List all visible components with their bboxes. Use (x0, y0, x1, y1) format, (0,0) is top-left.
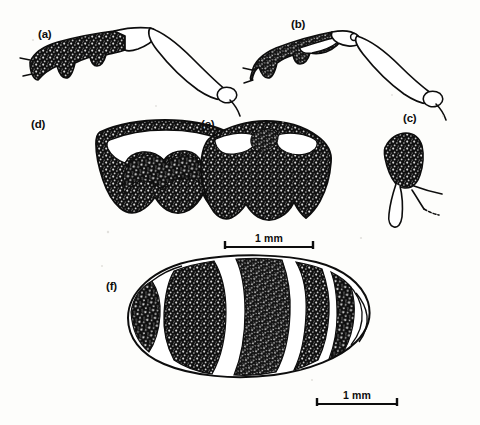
scale-bar-top-label: 1 mm (224, 232, 314, 244)
panel-label-a: (a) (38, 28, 51, 40)
panel-a-drawing (20, 28, 240, 116)
panel-f-drawing (128, 255, 370, 377)
figure-plate: (a) (b) (c) (d) (e) (f) 1 mm 1 mm (0, 0, 480, 425)
panel-label-d: (d) (31, 118, 45, 130)
panel-c-drawing (384, 133, 442, 227)
panel-label-f: (f) (106, 280, 117, 292)
panel-e-drawing (201, 121, 331, 220)
panel-label-b: (b) (291, 18, 305, 30)
panel-label-e: (e) (201, 118, 214, 130)
figure-drawing-canvas (0, 0, 480, 425)
scale-bar-bottom-label: 1 mm (316, 389, 398, 401)
panel-b-drawing (243, 31, 446, 120)
panel-label-c: (c) (403, 112, 416, 124)
